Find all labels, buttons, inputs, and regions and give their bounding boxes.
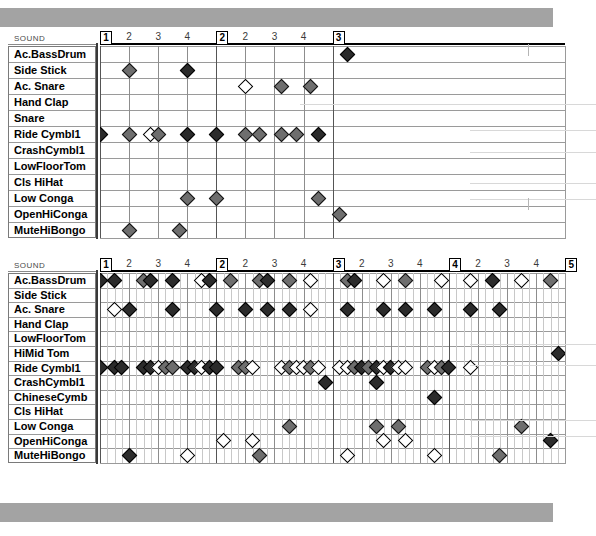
note-event[interactable] xyxy=(223,273,239,288)
note-event[interactable] xyxy=(339,448,355,464)
note-event[interactable] xyxy=(485,273,501,288)
sound-name-row[interactable]: Ac. Snare xyxy=(9,303,95,318)
sound-name-row[interactable]: OpenHiConga xyxy=(9,435,95,450)
note-event[interactable] xyxy=(514,273,530,288)
ruler-beat-marker[interactable]: 3 xyxy=(384,258,398,270)
ruler-beat-marker[interactable]: 2 xyxy=(122,258,136,270)
sound-name-row[interactable]: Low Conga xyxy=(9,420,95,435)
note-event[interactable] xyxy=(216,433,232,449)
note-event[interactable] xyxy=(376,273,392,288)
sound-name-label: ChineseCymb xyxy=(14,391,87,403)
sound-name-row[interactable]: LowFloorTom xyxy=(9,332,95,347)
sound-name-row[interactable]: CrashCymbl1 xyxy=(9,376,95,391)
note-event[interactable] xyxy=(463,273,479,288)
note-event[interactable] xyxy=(463,360,479,376)
note-event[interactable] xyxy=(434,273,450,288)
note-event[interactable] xyxy=(492,448,508,464)
sound-name-label: MuteHiBongo xyxy=(14,449,85,461)
ruler-bar-marker[interactable]: 5 xyxy=(565,258,577,272)
note-event[interactable] xyxy=(245,433,261,449)
note-event[interactable] xyxy=(281,302,297,318)
grid-beat-line xyxy=(536,273,537,463)
note-event[interactable] xyxy=(121,448,137,464)
note-event[interactable] xyxy=(165,273,181,288)
ruler-beat-marker[interactable]: 2 xyxy=(238,258,252,270)
note-event[interactable] xyxy=(492,302,508,318)
note-event[interactable] xyxy=(259,302,275,318)
note-event[interactable] xyxy=(107,302,123,318)
note-event[interactable] xyxy=(390,419,406,435)
ruler-beat-marker[interactable]: 3 xyxy=(151,258,165,270)
background-rule xyxy=(470,199,596,200)
note-event[interactable] xyxy=(398,302,414,318)
background-rule xyxy=(470,152,596,153)
note-event[interactable] xyxy=(376,433,392,449)
note-event[interactable] xyxy=(398,433,414,449)
ruler-beat-marker[interactable]: 4 xyxy=(180,258,194,270)
background-rule xyxy=(300,104,596,105)
note-event[interactable] xyxy=(281,273,297,288)
ruler-beat-marker[interactable]: 2 xyxy=(355,258,369,270)
grid-beat-line xyxy=(507,273,508,463)
note-event[interactable] xyxy=(376,302,392,318)
note-event[interactable] xyxy=(318,375,334,391)
sound-name-row[interactable]: MuteHiBongo xyxy=(9,449,95,464)
ruler-beat-marker[interactable]: 4 xyxy=(529,258,543,270)
sound-name-row[interactable]: Ac.BassDrum xyxy=(9,274,95,289)
note-event[interactable] xyxy=(165,302,181,318)
sound-name-row[interactable]: ChineseCymb xyxy=(9,391,95,406)
ruler-beat-marker[interactable]: 3 xyxy=(500,258,514,270)
sound-name-label: Hand Clap xyxy=(14,318,68,330)
note-event[interactable] xyxy=(427,389,443,405)
note-event[interactable] xyxy=(281,419,297,435)
note-event[interactable] xyxy=(179,448,195,464)
background-rule xyxy=(470,183,596,184)
note-event[interactable] xyxy=(303,273,319,288)
note-event[interactable] xyxy=(550,346,566,362)
note-event[interactable] xyxy=(398,273,414,288)
sound-name-label: Cls HiHat xyxy=(14,405,63,417)
ruler-beat-marker[interactable]: 2 xyxy=(471,258,485,270)
grid-subdivision-line xyxy=(529,273,530,463)
note-event[interactable] xyxy=(427,302,443,318)
sound-name-label: Side Stick xyxy=(14,289,67,301)
note-event[interactable] xyxy=(427,448,443,464)
grid-subdivision-line xyxy=(558,273,559,463)
note-event[interactable] xyxy=(339,302,355,318)
sound-name-row[interactable]: Side Stick xyxy=(9,289,95,304)
ruler-bar-marker[interactable]: 3 xyxy=(333,258,345,272)
note-event[interactable] xyxy=(238,302,254,318)
note-event[interactable] xyxy=(543,273,559,288)
note-event[interactable] xyxy=(121,302,137,318)
grid-subdivision-line xyxy=(260,273,261,463)
sound-name-label: Ac. Snare xyxy=(14,303,65,315)
sound-name-row[interactable]: Cls HiHat xyxy=(9,405,95,420)
note-event[interactable] xyxy=(303,302,319,318)
ruler-beat-marker[interactable]: 4 xyxy=(297,258,311,270)
grid-subdivision-line xyxy=(493,273,494,463)
ruler-beat-marker[interactable]: 3 xyxy=(267,258,281,270)
sound-name-label: CrashCymbl1 xyxy=(14,376,85,388)
sound-name-label: Ac.BassDrum xyxy=(14,274,86,286)
drum-editor-panel-2[interactable]: SOUND12342234323442345Ac.BassDrumSide St… xyxy=(0,0,596,536)
note-event[interactable] xyxy=(209,302,225,318)
background-tick xyxy=(528,44,529,56)
grid-beat-line xyxy=(478,273,479,463)
ruler-bar-marker[interactable]: 2 xyxy=(216,258,228,272)
grid-subdivision-line xyxy=(514,273,515,463)
ruler-bar-marker[interactable]: 1 xyxy=(100,258,112,272)
note-event[interactable] xyxy=(368,375,384,391)
note-event[interactable] xyxy=(107,273,123,288)
sound-name-column[interactable]: Ac.BassDrumSide StickAc. SnareHand ClapL… xyxy=(8,273,96,463)
grid-subdivision-line xyxy=(485,273,486,463)
sound-name-row[interactable]: HiMid Tom xyxy=(9,347,95,362)
sound-name-label: OpenHiConga xyxy=(14,435,87,447)
note-event[interactable] xyxy=(252,448,268,464)
ruler-bar-marker[interactable]: 4 xyxy=(449,258,461,272)
sound-name-row[interactable]: Ride Cymbl1 xyxy=(9,362,95,377)
sound-name-row[interactable]: Hand Clap xyxy=(9,318,95,333)
background-rule xyxy=(470,130,596,131)
note-event[interactable] xyxy=(368,419,384,435)
note-event[interactable] xyxy=(463,302,479,318)
ruler-beat-marker[interactable]: 4 xyxy=(413,258,427,270)
